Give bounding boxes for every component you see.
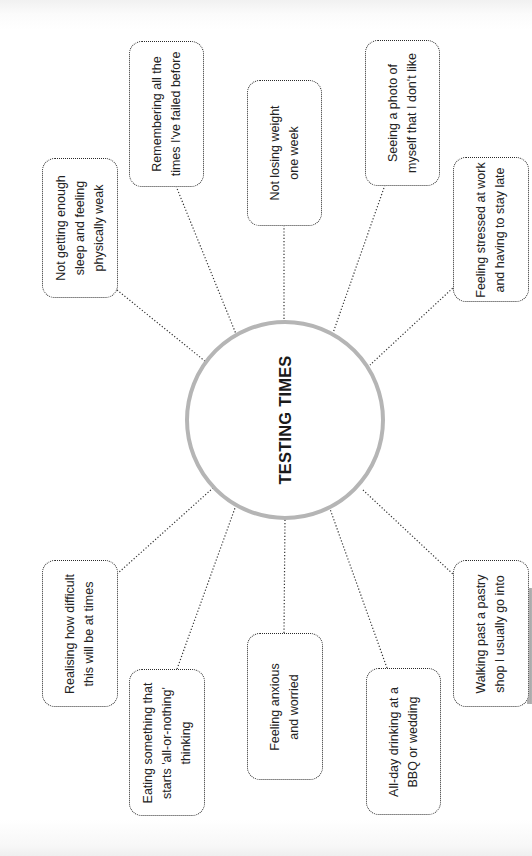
node-label: Eating something that starts 'all-or-not… <box>139 682 196 803</box>
node-anxious-worried: Feeling anxious and worried <box>247 633 323 780</box>
node-label: All-day drinking at a BBQ or wedding <box>385 687 423 797</box>
node-all-or-nothing-eating: Eating something that starts 'all-or-not… <box>129 669 205 816</box>
node-label: Walking past a pastry shop I usually go … <box>472 574 510 693</box>
node-seeing-photo: Seeing a photo of myself that I don't li… <box>365 40 440 186</box>
node-label: Feeling anxious and worried <box>266 663 304 751</box>
node-label: Seeing a photo of myself that I don't li… <box>384 53 422 173</box>
node-not-enough-sleep: Not getting enough sleep and feeling phy… <box>42 158 118 298</box>
central-topic-title: TESTING TIMES <box>276 355 295 484</box>
connector-n10 <box>363 490 455 576</box>
node-all-day-drinking: All-day drinking at a BBQ or wedding <box>366 668 441 815</box>
connector-n7 <box>177 508 235 669</box>
node-realising-difficulty: Realising how difficult this will be at … <box>42 560 118 707</box>
node-label: Not getting enough sleep and feeling phy… <box>52 175 109 281</box>
node-label: Remembering all the times I've failed be… <box>148 52 186 177</box>
node-stressed-at-work: Feeling stressed at work and having to s… <box>453 157 529 302</box>
central-topic-circle: TESTING TIMES <box>185 320 385 520</box>
node-not-losing-weight: Not losing weight one week <box>247 80 322 226</box>
connector-n5 <box>370 286 455 365</box>
node-label: Realising how difficult this will be at … <box>61 574 99 694</box>
node-pastry-shop: Walking past a pastry shop I usually go … <box>453 560 529 707</box>
connector-n8 <box>284 518 285 633</box>
node-label: Feeling stressed at work and having to s… <box>472 162 510 297</box>
connector-n4 <box>333 185 385 333</box>
connector-n9 <box>330 509 387 668</box>
connector-n6 <box>117 488 213 574</box>
connector-n2 <box>176 186 236 334</box>
node-remembering-failures: Remembering all the times I've failed be… <box>129 41 204 187</box>
connector-n1 <box>117 290 211 366</box>
node-label: Not losing weight one week <box>266 105 304 200</box>
